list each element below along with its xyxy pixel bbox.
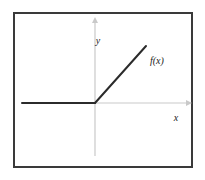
x-axis-label: x (173, 112, 179, 123)
figure-container: y x f(x) (0, 0, 205, 180)
function-curve-label: f(x) (150, 55, 165, 67)
figure-background (0, 0, 205, 180)
function-graph-figure: y x f(x) (0, 0, 205, 180)
y-axis-label: y (95, 35, 101, 46)
